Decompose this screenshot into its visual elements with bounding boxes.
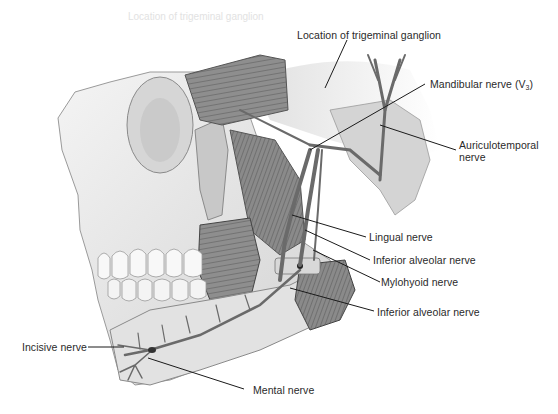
anatomy-figure: Location of trigeminal ganglion: [0, 0, 558, 414]
label-mental-nerve: Mental nerve: [253, 384, 314, 396]
label-inferior-alveolar-nerve-lower: Inferior alveolar nerve: [377, 306, 480, 318]
faded-header-text: Location of trigeminal ganglion: [128, 11, 264, 22]
label-inferior-alveolar-nerve-upper: Inferior alveolar nerve: [373, 254, 476, 266]
label-trigeminal-ganglion: Location of trigeminal ganglion: [297, 29, 441, 41]
temporal-bone: [330, 100, 430, 215]
label-mandibular-nerve: Mandibular nerve (V3): [430, 78, 533, 94]
label-incisive-nerve: Incisive nerve: [22, 341, 87, 353]
label-auriculotemporal-nerve: Auriculotemporal nerve: [459, 139, 539, 163]
mental-foramen: [148, 347, 156, 353]
label-lingual-nerve: Lingual nerve: [369, 231, 433, 243]
label-mylohyoid-nerve: Mylohyoid nerve: [381, 276, 458, 288]
